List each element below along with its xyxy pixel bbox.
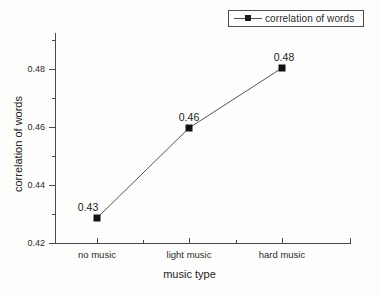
y-axis-title: correlation of words bbox=[12, 74, 24, 214]
x-tick-label: light music bbox=[167, 249, 212, 260]
data-point-label: 0.46 bbox=[179, 111, 199, 123]
x-tick-major bbox=[189, 238, 190, 244]
data-point-marker bbox=[186, 125, 193, 132]
x-axis-end-tick bbox=[350, 238, 351, 244]
y-tick-label: 0.42 bbox=[27, 238, 45, 248]
y-axis-line bbox=[55, 33, 56, 244]
x-axis-line bbox=[55, 243, 351, 244]
data-point-label: 0.48 bbox=[274, 51, 294, 63]
x-tick-minor bbox=[143, 240, 144, 244]
x-tick-major bbox=[282, 238, 283, 244]
data-point-marker bbox=[94, 215, 101, 222]
y-tick-major bbox=[49, 243, 55, 244]
x-axis-title: music type bbox=[0, 268, 379, 280]
chart-figure: correlation of words 0.42 0.44 0.46 0.48… bbox=[0, 0, 379, 297]
data-point-marker bbox=[279, 65, 286, 72]
y-tick-label: 0.48 bbox=[27, 64, 45, 74]
y-tick-minor bbox=[52, 156, 55, 157]
x-tick-label: no music bbox=[78, 249, 116, 260]
y-tick-minor bbox=[52, 214, 55, 215]
y-tick-major bbox=[49, 69, 55, 70]
y-tick-label: 0.46 bbox=[27, 122, 45, 132]
y-tick-major bbox=[49, 185, 55, 186]
y-tick-major bbox=[49, 127, 55, 128]
x-tick-minor bbox=[236, 240, 237, 244]
x-tick-label: hard music bbox=[259, 249, 305, 260]
y-tick-minor bbox=[52, 40, 55, 41]
x-tick-major bbox=[97, 238, 98, 244]
data-point-label: 0.43 bbox=[78, 201, 98, 213]
line-square-marker-icon bbox=[234, 13, 262, 24]
y-tick-label: 0.44 bbox=[27, 180, 45, 190]
chart-legend: correlation of words bbox=[228, 10, 364, 27]
legend-entry-label: correlation of words bbox=[265, 13, 354, 24]
y-tick-minor bbox=[52, 98, 55, 99]
